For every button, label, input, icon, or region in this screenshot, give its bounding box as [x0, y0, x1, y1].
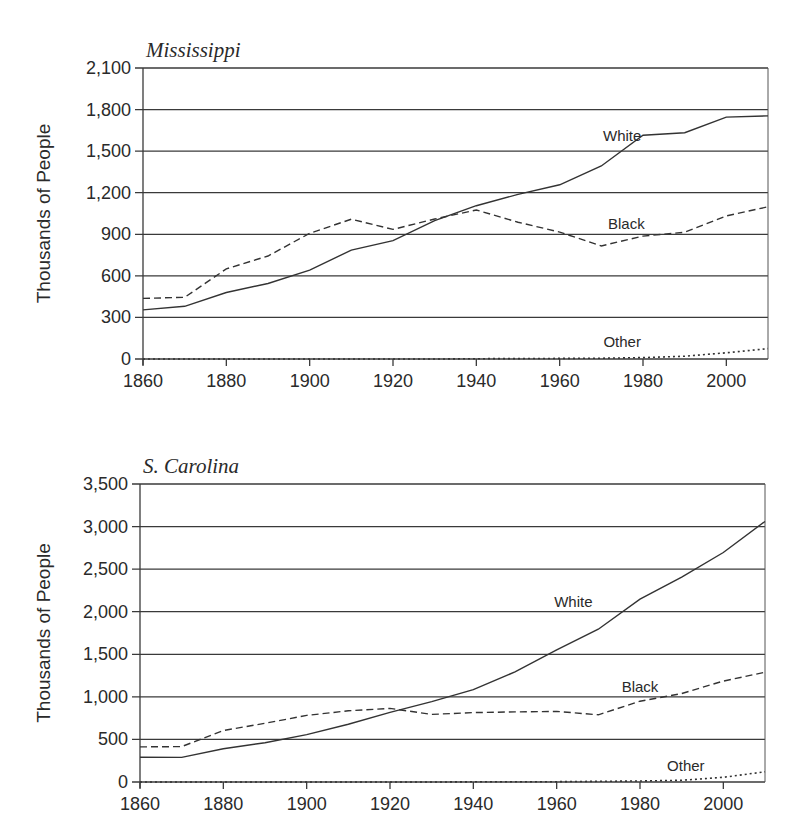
y-tick-label: 900 — [101, 224, 131, 244]
figure: MississippiThousands of People0300600900… — [0, 0, 790, 839]
series-label-other: Other — [667, 757, 705, 774]
plot-area — [135, 68, 768, 366]
x-tick-label: 1860 — [120, 794, 160, 814]
series-line-white — [143, 116, 768, 310]
y-tick-label: 500 — [98, 729, 128, 749]
y-tick-label: 2,000 — [83, 602, 128, 622]
series-label-black: Black — [608, 215, 645, 232]
chart-title: Mississippi — [145, 38, 241, 62]
series-line-black — [143, 207, 768, 299]
y-axis-label: Thousands of People — [33, 543, 54, 723]
y-tick-label: 1,500 — [86, 141, 131, 161]
y-tick-label: 1,200 — [86, 183, 131, 203]
x-tick-label: 1900 — [287, 794, 327, 814]
chart-mississippi-svg: MississippiThousands of People0300600900… — [0, 0, 790, 420]
x-tick-label: 1920 — [373, 371, 413, 391]
series-label-white: White — [603, 127, 641, 144]
series-label-other: Other — [603, 333, 641, 350]
x-tick-label: 1880 — [203, 794, 243, 814]
x-tick-label: 1880 — [206, 371, 246, 391]
chart-south-carolina-svg: S. CarolinaThousands of People05001,0001… — [0, 420, 790, 839]
y-tick-label: 3,500 — [83, 474, 128, 494]
y-tick-label: 600 — [101, 266, 131, 286]
x-tick-label: 1960 — [540, 371, 580, 391]
chart-mississippi: MississippiThousands of People0300600900… — [0, 0, 790, 420]
y-tick-label: 300 — [101, 307, 131, 327]
series-label-white: White — [554, 593, 592, 610]
x-tick-label: 1980 — [620, 794, 660, 814]
x-tick-label: 1860 — [123, 371, 163, 391]
series-line-white — [140, 522, 765, 758]
y-tick-label: 2,100 — [86, 58, 131, 78]
series-line-other — [143, 349, 768, 359]
y-tick-label: 1,000 — [83, 687, 128, 707]
x-tick-label: 1960 — [537, 794, 577, 814]
series-label-black: Black — [622, 678, 659, 695]
y-tick-label: 0 — [121, 349, 131, 369]
x-tick-label: 1920 — [370, 794, 410, 814]
y-axis-label: Thousands of People — [33, 124, 54, 304]
series-line-black — [140, 672, 765, 747]
x-tick-label: 2000 — [706, 371, 746, 391]
x-tick-label: 1980 — [623, 371, 663, 391]
y-tick-label: 0 — [118, 772, 128, 792]
y-tick-label: 2,500 — [83, 559, 128, 579]
x-tick-label: 2000 — [703, 794, 743, 814]
y-tick-label: 1,500 — [83, 644, 128, 664]
x-tick-label: 1940 — [453, 794, 493, 814]
y-tick-label: 3,000 — [83, 517, 128, 537]
y-tick-label: 1,800 — [86, 100, 131, 120]
chart-south-carolina: S. CarolinaThousands of People05001,0001… — [0, 420, 790, 839]
plot-area — [132, 484, 765, 789]
chart-title: S. Carolina — [143, 454, 239, 478]
x-tick-label: 1940 — [456, 371, 496, 391]
x-tick-label: 1900 — [290, 371, 330, 391]
